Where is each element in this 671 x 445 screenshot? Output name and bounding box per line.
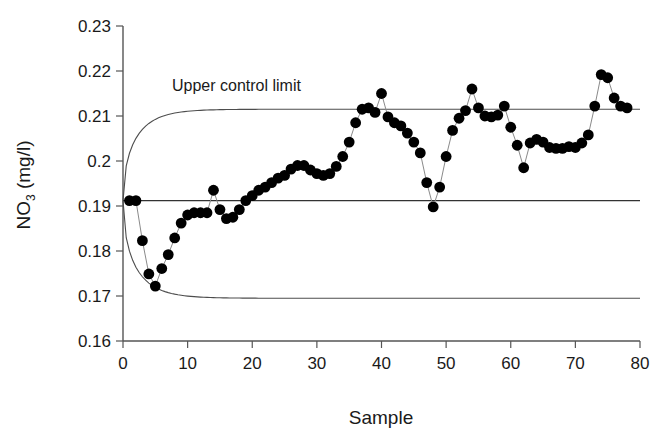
data-point: [421, 177, 432, 188]
data-point: [150, 281, 161, 292]
data-point: [408, 137, 419, 148]
data-point: [202, 207, 213, 218]
x-tick-label: 0: [118, 354, 127, 373]
y-axis-title-base: NO: [13, 201, 34, 230]
x-tick-label: 60: [501, 354, 520, 373]
data-point: [492, 110, 503, 121]
data-point: [143, 269, 154, 280]
data-point: [505, 122, 516, 133]
data-point: [337, 151, 348, 162]
data-point: [602, 72, 613, 83]
data-point: [583, 130, 594, 141]
x-tick-label: 80: [631, 354, 650, 373]
y-tick-label: 0.19: [78, 197, 111, 216]
x-tick-label: 10: [178, 354, 197, 373]
y-tick-label: 0.22: [78, 62, 111, 81]
data-point: [512, 140, 523, 151]
data-point: [169, 233, 180, 244]
data-point: [499, 101, 510, 112]
data-point: [208, 185, 219, 196]
data-point: [376, 88, 387, 99]
y-tick-label: 0.23: [78, 17, 111, 36]
x-tick-label: 40: [372, 354, 391, 373]
data-point: [163, 249, 174, 260]
data-point: [331, 161, 342, 172]
data-point: [460, 105, 471, 116]
y-tick-label: 0.16: [78, 332, 111, 351]
x-tick-label: 30: [307, 354, 326, 373]
x-tick-label: 20: [243, 354, 262, 373]
y-tick-label: 0.17: [78, 287, 111, 306]
upper-control-limit-label: Upper control limit: [172, 77, 301, 94]
data-point: [402, 128, 413, 139]
x-tick-label: 50: [437, 354, 456, 373]
data-point: [622, 103, 633, 114]
data-point: [434, 182, 445, 193]
y-axis-title-unit: (mg/l): [13, 140, 34, 194]
data-point: [131, 195, 142, 206]
data-point: [518, 162, 529, 173]
data-point: [467, 84, 478, 95]
data-point: [156, 263, 167, 274]
y-tick-label: 0.2: [87, 152, 111, 171]
x-tick-label: 70: [566, 354, 585, 373]
data-point: [215, 204, 226, 215]
y-tick-label: 0.18: [78, 242, 111, 261]
data-point: [350, 117, 361, 128]
data-point: [415, 148, 426, 159]
control-chart-figure: 0.160.170.180.190.20.210.220.23 01020304…: [0, 0, 671, 445]
data-point: [137, 235, 148, 246]
data-point: [441, 151, 452, 162]
data-point: [234, 204, 245, 215]
data-point: [370, 107, 381, 118]
data-point: [447, 125, 458, 136]
data-point: [344, 137, 355, 148]
x-axis-title: Sample: [349, 407, 413, 428]
data-point: [589, 101, 600, 112]
data-point: [428, 202, 439, 213]
y-tick-label: 0.21: [78, 107, 111, 126]
